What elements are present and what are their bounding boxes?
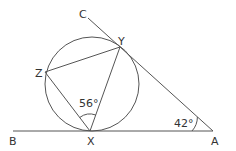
geometry-diagram: C Y Z B X A 56° 42° (0, 0, 236, 151)
point-label-b: B (9, 135, 17, 148)
point-label-x: X (87, 135, 95, 148)
angle-arc-x (80, 114, 96, 118)
angle-label-a: 42° (174, 117, 194, 130)
segment-yz (45, 47, 120, 72)
point-label-y: Y (117, 35, 125, 48)
segment-xy (90, 47, 120, 131)
point-label-c: C (79, 8, 87, 21)
angle-label-x: 56° (79, 97, 99, 110)
point-label-a: A (211, 135, 219, 148)
line-ca (88, 18, 213, 131)
point-label-z: Z (35, 67, 43, 80)
